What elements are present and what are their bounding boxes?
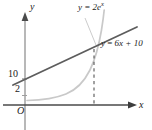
line-curve xyxy=(13,27,137,85)
x-axis-label: x xyxy=(139,100,143,110)
origin-label: O xyxy=(17,106,24,116)
line-curve-label: y = 6x + 10 xyxy=(101,39,143,48)
exponential-curve-label: y = 2ex xyxy=(78,3,104,12)
exponential-curve xyxy=(27,10,104,101)
y-tick-label-2: 2 xyxy=(15,84,20,94)
exponential-label-leader xyxy=(85,18,96,45)
math-figure: y = 2ex y = 6x + 10 y x 10 2 O xyxy=(0,0,152,130)
y-tick-label-10: 10 xyxy=(8,69,18,79)
y-axis-label: y xyxy=(30,2,34,12)
